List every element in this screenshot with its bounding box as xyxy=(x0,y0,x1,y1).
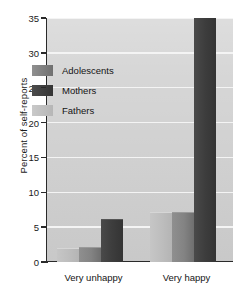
y-tick-10 xyxy=(41,192,46,194)
x-axis-label-very-happy: Very happy xyxy=(163,272,211,283)
y-tick-25 xyxy=(41,87,46,89)
legend-swatch-adolescents xyxy=(32,65,53,76)
bar-chart-figure: Percent of self-reports 05101520253035 A… xyxy=(0,0,243,297)
y-tick-20 xyxy=(41,122,46,124)
y-tick-5 xyxy=(41,226,46,228)
bar-fathers-very-unhappy xyxy=(57,248,79,262)
y-tick-label-30: 30 xyxy=(13,47,39,58)
legend-label-adolescents: Adolescents xyxy=(62,65,114,76)
y-tick-15 xyxy=(41,157,46,159)
legend-label-mothers: Mothers xyxy=(62,85,96,96)
y-tick-label-10: 10 xyxy=(13,187,39,198)
bar-mothers-very-happy xyxy=(194,18,216,262)
y-tick-label-0: 0 xyxy=(13,257,39,268)
y-axis-tick-labels: 05101520253035 xyxy=(6,0,39,297)
y-tick-label-35: 35 xyxy=(13,13,39,24)
chart-legend: AdolescentsMothersFathers xyxy=(32,62,160,122)
plot-area xyxy=(47,18,233,262)
y-tick-35 xyxy=(41,17,46,19)
y-tick-30 xyxy=(41,52,46,54)
legend-item-adolescents: Adolescents xyxy=(32,62,160,79)
bar-mothers-very-unhappy xyxy=(101,219,123,262)
legend-item-fathers: Fathers xyxy=(32,102,160,119)
y-tick-0 xyxy=(41,261,46,263)
bar-fathers-very-happy xyxy=(150,212,172,262)
x-axis-label-very-unhappy: Very unhappy xyxy=(64,272,122,283)
legend-swatch-fathers xyxy=(32,105,53,116)
y-tick-label-5: 5 xyxy=(13,222,39,233)
bar-adolescents-very-happy xyxy=(172,212,194,262)
legend-label-fathers: Fathers xyxy=(62,105,94,116)
y-tick-label-15: 15 xyxy=(13,152,39,163)
bar-adolescents-very-unhappy xyxy=(79,247,101,262)
legend-item-mothers: Mothers xyxy=(32,82,160,99)
